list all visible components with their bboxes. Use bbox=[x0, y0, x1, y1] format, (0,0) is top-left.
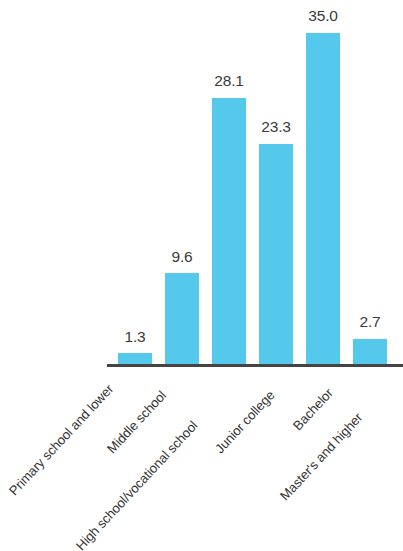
bar[interactable] bbox=[353, 339, 387, 365]
bar-value-label: 2.7 bbox=[360, 313, 381, 331]
bar-group[interactable]: 28.1 bbox=[212, 12, 246, 365]
x-axis-label-high-school-vocational-school: High school/vocational school bbox=[73, 418, 200, 551]
bar-value-label: 1.3 bbox=[125, 328, 146, 346]
bar-group[interactable]: 2.7 bbox=[353, 12, 387, 365]
x-axis-label-junior-college: Junior college bbox=[212, 388, 278, 457]
bar-chart: 1.3 9.6 28.1 23.3 35.0 2.7 Primary schoo… bbox=[0, 0, 403, 551]
x-axis-label-middle-school: Middle school bbox=[104, 388, 169, 456]
bar-value-label: 9.6 bbox=[172, 248, 193, 266]
bar-value-label: 35.0 bbox=[308, 7, 337, 25]
bar-value-label: 23.3 bbox=[261, 118, 290, 136]
bar-value-label: 28.1 bbox=[214, 72, 243, 90]
x-axis-labels: Primary school and lower Middle school H… bbox=[0, 366, 403, 551]
bar-group[interactable]: 23.3 bbox=[259, 12, 293, 365]
bar-group[interactable]: 35.0 bbox=[306, 12, 340, 365]
bar[interactable] bbox=[259, 144, 293, 365]
x-axis-label-bachelor: Bachelor bbox=[290, 386, 336, 434]
plot-area: 1.3 9.6 28.1 23.3 35.0 2.7 bbox=[0, 0, 403, 366]
bar[interactable] bbox=[212, 98, 246, 365]
bar-group[interactable]: 1.3 bbox=[118, 12, 152, 365]
bar[interactable] bbox=[306, 33, 340, 365]
bar[interactable] bbox=[165, 273, 199, 365]
x-axis-label-primary-school-and-lower: Primary school and lower bbox=[6, 381, 116, 498]
bar-group[interactable]: 9.6 bbox=[165, 12, 199, 365]
